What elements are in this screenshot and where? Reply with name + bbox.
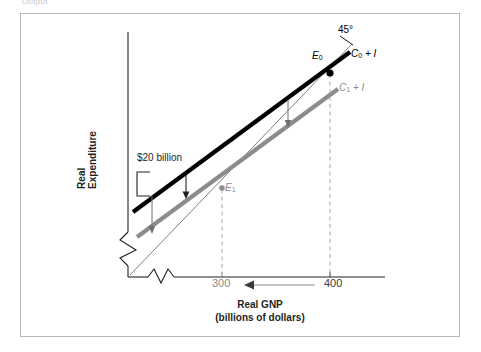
curve-label-c0-plus-i: C0 + I <box>351 48 376 59</box>
angle-label-45: 45° <box>338 24 353 35</box>
equilibrium-label-e0: E0 <box>312 50 323 61</box>
shift-bracket <box>137 172 150 196</box>
equilibrium-label-e0-sub: 0 <box>319 54 323 61</box>
curve-c0-plus-i <box>133 52 350 212</box>
equilibrium-label-e0-main: E <box>312 50 319 61</box>
x-tick-label-400: 400 <box>324 277 342 289</box>
figure-root: Output <box>0 0 481 352</box>
x-tick-label-300: 300 <box>212 277 230 289</box>
x-axis-title: Real GNP <box>140 298 380 311</box>
equilibrium-label-e1-sub: 1 <box>232 186 236 193</box>
point-e1 <box>219 185 225 191</box>
x-axis-title-wrap: Real GNP (billions of dollars) <box>140 298 380 324</box>
equilibrium-label-e1: E1 <box>225 182 236 193</box>
point-e0 <box>326 69 333 76</box>
y-axis-title: Real Expenditure <box>76 131 98 189</box>
leftward-gnp-arrow <box>244 281 315 290</box>
y-axis-break-icon <box>120 232 136 266</box>
curve-label-c1-plus-i: C1 + I <box>339 82 364 93</box>
equilibrium-label-e1-main: E <box>225 182 232 193</box>
angle-leader-line <box>340 36 353 45</box>
curve-c1-plus-i <box>137 89 338 237</box>
shift-amount-label: $20 billion <box>137 152 182 163</box>
x-axis-break-icon <box>148 269 174 283</box>
downward-shift-arrow-middle <box>183 175 190 199</box>
curve-label-c0-tail: + I <box>362 48 376 59</box>
y-axis-title-wrap: Real Expenditure <box>79 100 95 220</box>
curve-label-c1-tail: + I <box>350 82 364 93</box>
x-axis-subtitle: (billions of dollars) <box>140 311 380 324</box>
